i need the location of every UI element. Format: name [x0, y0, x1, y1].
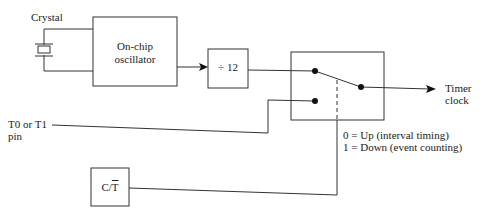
timer-clock-diagram — [0, 0, 484, 221]
ct-label: C/T — [91, 181, 129, 194]
ct-label-c: C/ — [101, 181, 111, 193]
pin-label-line2: pin — [8, 130, 47, 142]
oscillator-label-line1: On-chip — [93, 40, 177, 53]
timer-clock-label: Timer clock — [445, 82, 472, 106]
crystal-wire-top — [44, 29, 93, 45]
pin-wire — [52, 100, 315, 133]
switch-contact-divider — [312, 68, 318, 74]
pin-label: T0 or T1 pin — [8, 118, 47, 142]
switch-output-wire — [361, 87, 430, 89]
oscillator-label: On-chip oscillator — [93, 40, 177, 66]
switch-lever — [315, 71, 361, 87]
ct-label-t-bar: T — [112, 181, 119, 193]
timer-clock-label-line2: clock — [445, 94, 472, 106]
divider-to-switch-wire — [248, 70, 315, 71]
mode-legend-line1: 0 = Up (interval timing) — [343, 129, 462, 141]
crystal-wire-bottom — [44, 55, 93, 71]
pin-label-line1: T0 or T1 — [8, 118, 47, 130]
timer-clock-label-line1: Timer — [445, 82, 472, 94]
oscillator-label-line2: oscillator — [93, 53, 177, 66]
crystal-icon — [38, 46, 50, 53]
divider-label: ÷ 12 — [208, 61, 248, 74]
mode-legend-line2: 1 = Down (event counting) — [343, 141, 462, 153]
mode-legend: 0 = Up (interval timing) 1 = Down (event… — [343, 129, 462, 153]
crystal-label: Crystal — [31, 11, 63, 23]
switch-contact-pin — [312, 98, 318, 104]
switch-contact-output — [358, 84, 364, 90]
